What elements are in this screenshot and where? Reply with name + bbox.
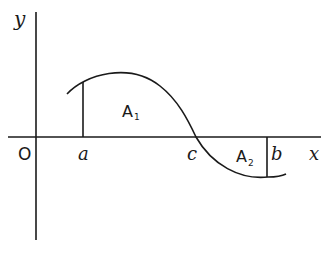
point-a-label: a — [78, 143, 89, 164]
point-c-label: c — [187, 143, 197, 164]
region-a1-subscript: 1 — [134, 112, 140, 122]
region-a1-label: A — [122, 102, 133, 121]
region-a2-subscript: 2 — [248, 158, 254, 168]
origin-label: O — [18, 144, 31, 164]
area-under-curve-diagram: y O a c b x A 1 A 2 — [0, 0, 321, 256]
region-a2-label: A — [236, 147, 247, 166]
point-b-label: b — [271, 143, 283, 164]
y-axis-label: y — [13, 7, 26, 31]
x-axis-label: x — [309, 143, 319, 164]
